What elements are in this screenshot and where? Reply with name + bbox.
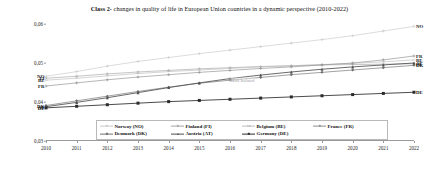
most-isolated-annotation: Most Isolated: [229, 77, 255, 82]
legend-label: Germany (DE): [257, 131, 289, 136]
legend-swatch-icon: [171, 131, 184, 137]
chart-title: Class 2- changes in quality of life in E…: [0, 4, 439, 13]
legend-swatch-icon: [242, 123, 255, 129]
x-tick-label: 2015: [194, 145, 204, 151]
x-tick-label: 2018: [286, 145, 296, 151]
legend-item-NO[interactable]: Norway (NO): [100, 123, 171, 129]
x-tick-mark: [322, 141, 323, 143]
x-tick-mark: [383, 141, 384, 143]
chart-title-lead: Class 2-: [91, 5, 112, 12]
x-tick-mark: [138, 141, 139, 143]
legend-label: Norway (NO): [115, 124, 144, 129]
x-tick-mark: [353, 141, 354, 143]
series-DE: [45, 91, 416, 110]
x-tick-mark: [77, 141, 78, 143]
x-tick-label: 2016: [225, 145, 235, 151]
x-tick-label: 2019: [317, 145, 327, 151]
y-tick-label: 0,03: [34, 138, 43, 144]
x-tick-label: 2011: [72, 145, 82, 151]
legend-item-DK[interactable]: Denmark (DK): [100, 131, 171, 137]
legend-swatch-icon: [100, 131, 113, 137]
x-tick-label: 2022: [409, 145, 419, 151]
legend-item-AT[interactable]: Austria (AT): [171, 131, 242, 137]
x-tick-label: 2021: [378, 145, 388, 151]
x-tick-mark: [230, 141, 231, 143]
x-tick-mark: [199, 141, 200, 143]
x-tick-mark: [291, 141, 292, 143]
legend-item-BE[interactable]: Belgium (BE): [242, 123, 313, 129]
x-tick-label: 2017: [256, 145, 266, 151]
chart-title-rest: changes in quality of life in European U…: [112, 5, 348, 12]
legend-label: Denmark (DK): [115, 131, 147, 136]
chart-container: Class 2- changes in quality of life in E…: [0, 0, 439, 169]
chart-legend: Norway (NO)Finland (FI)Belgium (BE)Franc…: [96, 120, 388, 140]
x-tick-label: 2014: [164, 145, 174, 151]
series-FR: [45, 54, 416, 87]
legend-item-DE[interactable]: Germany (DE): [242, 131, 313, 137]
legend-swatch-icon: [100, 123, 113, 129]
x-tick-label: 2010: [41, 145, 51, 151]
legend-swatch-icon: [242, 131, 255, 137]
x-tick-label: 2012: [102, 145, 112, 151]
legend-label: Austria (AT): [186, 131, 213, 136]
left-label-FR: FR: [38, 84, 45, 89]
left-label-DE: DE: [38, 105, 45, 110]
x-tick-mark: [107, 141, 108, 143]
left-label-BE: BE: [38, 78, 45, 83]
legend-swatch-icon: [171, 123, 184, 129]
legend-item-FR[interactable]: France (FR): [313, 123, 384, 129]
x-tick-label: 2013: [133, 145, 143, 151]
legend-label: Finland (FI): [186, 124, 212, 129]
x-tick-mark: [169, 141, 170, 143]
legend-item-FI[interactable]: Finland (FI): [171, 123, 242, 129]
y-tick-label: 0,06: [34, 21, 43, 27]
legend-label: Belgium (BE): [257, 124, 286, 129]
x-tick-mark: [46, 141, 47, 143]
right-label-DE: DE: [416, 90, 423, 95]
x-tick-label: 2020: [348, 145, 358, 151]
legend-label: France (FR): [328, 124, 354, 129]
legend-swatch-icon: [313, 123, 326, 129]
x-tick-mark: [414, 141, 415, 143]
x-tick-mark: [261, 141, 262, 143]
y-tick-label: 0,05: [34, 60, 43, 66]
right-label-DK: DK: [416, 63, 423, 68]
right-label-NO: NO: [416, 24, 423, 29]
